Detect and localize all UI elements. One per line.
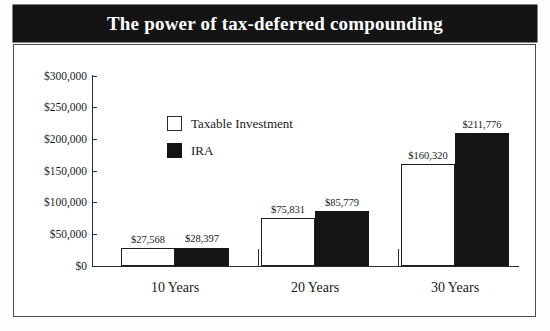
bar-label-ira-30-years: $211,776 xyxy=(463,119,502,130)
legend-item-ira[interactable]: IRA xyxy=(167,139,293,162)
bar-taxable-10-years[interactable] xyxy=(121,248,175,266)
category-label-10-years: 10 Years xyxy=(151,280,199,296)
bar-taxable-30-years[interactable] xyxy=(401,164,455,266)
legend-swatch-white-square-icon xyxy=(167,116,182,131)
legend-item-taxable-investment[interactable]: Taxable Investment xyxy=(167,112,293,135)
chart-figure: The power of tax-deferred compounding $3… xyxy=(0,0,550,331)
bar-label-taxable-10-years: $27,568 xyxy=(131,234,165,245)
legend-swatch-black-square-icon xyxy=(167,143,182,158)
bar-taxable-20-years[interactable] xyxy=(261,218,315,267)
bar-ira-20-years[interactable] xyxy=(315,211,369,266)
category-label-20-years: 20 Years xyxy=(291,280,339,296)
chart-legend: Taxable Investment IRA xyxy=(167,112,293,166)
bar-ira-30-years[interactable] xyxy=(455,133,509,266)
bar-label-ira-10-years: $28,397 xyxy=(185,233,219,244)
bar-label-taxable-20-years: $75,831 xyxy=(271,204,305,215)
category-label-30-years: 30 Years xyxy=(431,280,479,296)
bar-ira-10-years[interactable] xyxy=(175,248,229,267)
bar-label-ira-20-years: $85,779 xyxy=(325,197,359,208)
bar-label-taxable-30-years: $160,320 xyxy=(408,150,447,161)
legend-label-taxable-investment: Taxable Investment xyxy=(191,116,293,132)
legend-label-ira: IRA xyxy=(191,143,213,159)
